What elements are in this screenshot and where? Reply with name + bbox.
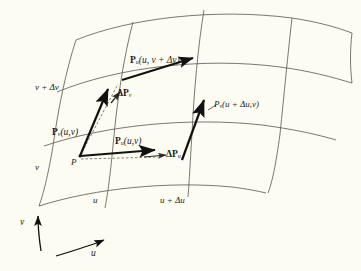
label-axis-u: u bbox=[91, 249, 96, 259]
label-v: v bbox=[35, 163, 39, 172]
label-pv-u-plus-du-v: Pv(u + Δu,v) bbox=[214, 100, 259, 110]
label-delta-pu: ΔPu bbox=[166, 150, 181, 160]
surface-patch-figure: Pu(u, v + Δv) v + Δv ΔPv Pv(u,v) Pu(u,v)… bbox=[0, 0, 361, 271]
vector-delta-pu bbox=[144, 155, 166, 157]
grid-curve-u-left bbox=[39, 40, 76, 206]
label-pu-u-v-args: (u,v) bbox=[124, 136, 142, 146]
vector-pv-u-v bbox=[80, 89, 108, 156]
label-point-p: P bbox=[71, 158, 77, 167]
surface-grid bbox=[39, 10, 352, 208]
grid-curve-u-edge bbox=[351, 33, 353, 83]
label-delta-pv-symbol: ΔP bbox=[117, 88, 129, 98]
label-delta-pv-sub: v bbox=[129, 92, 132, 98]
label-axis-v: v bbox=[20, 218, 24, 228]
label-delta-pu-sub: u bbox=[178, 153, 181, 159]
grid-curve-u-right bbox=[268, 18, 292, 193]
point-p-marker bbox=[79, 155, 82, 158]
label-pu-u-v: Pu(u,v) bbox=[115, 137, 141, 147]
label-pu-u-v-plus-dv-args: (u, v + Δv) bbox=[139, 55, 180, 65]
label-pu-u-v-plus-dv: Pu(u, v + Δv) bbox=[130, 56, 180, 66]
label-pv-u-plus-du-v-args: (u + Δu,v) bbox=[222, 99, 259, 109]
label-u-plus-du: u + Δu bbox=[160, 196, 185, 205]
label-u: u bbox=[93, 196, 98, 205]
grid-curve-v-top bbox=[76, 14, 352, 40]
grid-curve-v bbox=[44, 122, 336, 146]
grid-curve-u bbox=[105, 22, 133, 208]
grid-curve-v-plus-dv bbox=[57, 63, 352, 92]
label-delta-pv: ΔPv bbox=[117, 89, 131, 99]
grid-curve-v-bottom bbox=[39, 185, 266, 206]
label-v-plus-dv: v + Δv bbox=[35, 83, 59, 92]
v-axis-arrow bbox=[38, 216, 41, 251]
label-delta-pu-symbol: ΔP bbox=[166, 149, 178, 159]
secant-guide-pu bbox=[81, 157, 160, 159]
vector-pu-u-v bbox=[80, 150, 155, 156]
label-pv-u-v: Pv(u,v) bbox=[52, 128, 78, 138]
label-pv-u-v-args: (u,v) bbox=[60, 127, 78, 137]
u-axis-arrow bbox=[56, 240, 104, 256]
